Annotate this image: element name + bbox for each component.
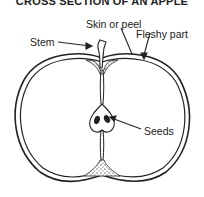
label-skin-or-peel: Skin or peel xyxy=(86,18,141,30)
calyx-region xyxy=(84,160,120,176)
stem xyxy=(98,40,106,68)
label-seeds: Seeds xyxy=(144,125,174,137)
label-fleshy-part: Fleshy part xyxy=(136,28,188,40)
label-stem: Stem xyxy=(30,36,55,48)
